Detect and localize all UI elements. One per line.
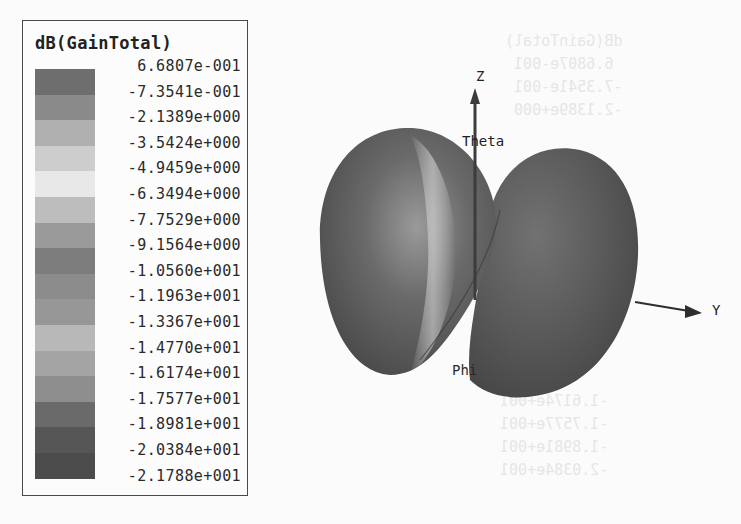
legend-swatch (35, 325, 95, 351)
z-axis-label: Z (476, 68, 484, 84)
legend-level-label: -9.1564e+000 (128, 233, 241, 259)
legend-level-label: -3.5424e+000 (128, 131, 241, 157)
legend-swatch (35, 351, 95, 377)
legend-level-label: -1.3367e+001 (128, 310, 241, 336)
legend-level-label: -2.1389e+000 (128, 105, 241, 131)
legend-swatch (35, 402, 95, 428)
legend-level-label: -1.4770e+001 (128, 336, 241, 362)
legend-swatch (35, 197, 95, 223)
phi-label: Phi (452, 362, 477, 378)
theta-label: Theta (462, 133, 504, 149)
legend-swatch (35, 69, 95, 95)
legend-swatch (35, 120, 95, 146)
legend-swatch (35, 95, 95, 121)
radiation-pattern-3d: Z Theta Y Phi (290, 40, 741, 500)
legend-labels: 6.6807e-001-7.3541e-001-2.1389e+000-3.54… (128, 54, 241, 489)
color-legend: dB(GainTotal) 6.6807e-001-7.3541e-001-2.… (22, 20, 248, 496)
pattern-shape (290, 40, 741, 500)
legend-level-label: 6.6807e-001 (128, 54, 241, 80)
legend-level-label: -4.9459e+000 (128, 156, 241, 182)
legend-level-label: -1.8981e+001 (128, 412, 241, 438)
legend-level-label: -7.7529e+000 (128, 208, 241, 234)
legend-swatch (35, 248, 95, 274)
legend-swatch (35, 299, 95, 325)
legend-level-label: -1.6174e+001 (128, 361, 241, 387)
legend-level-label: -1.0560e+001 (128, 259, 241, 285)
legend-swatch (35, 376, 95, 402)
legend-swatch (35, 427, 95, 453)
legend-level-label: -1.7577e+001 (128, 387, 241, 413)
legend-swatch (35, 171, 95, 197)
legend-swatch (35, 453, 95, 479)
legend-level-label: -2.0384e+001 (128, 438, 241, 464)
legend-swatch (35, 274, 95, 300)
legend-level-label: -6.3494e+000 (128, 182, 241, 208)
legend-swatch (35, 146, 95, 172)
legend-level-label: -1.1963e+001 (128, 284, 241, 310)
legend-swatch (35, 223, 95, 249)
legend-title: dB(GainTotal) (35, 33, 172, 53)
legend-swatches (35, 69, 95, 479)
y-axis-label: Y (712, 302, 720, 318)
legend-level-label: -7.3541e-001 (128, 80, 241, 106)
legend-level-label: -2.1788e+001 (128, 464, 241, 490)
